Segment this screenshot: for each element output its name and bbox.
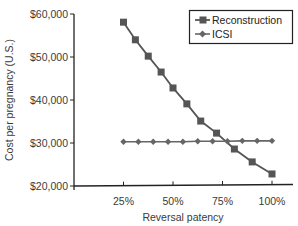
- y-axis-title: Cost per pregnancy (U.S.): [3, 39, 15, 161]
- diamond-marker-icon: [239, 138, 245, 144]
- x-axis-title: Reversal patency: [142, 211, 224, 223]
- square-marker-icon: [132, 36, 139, 43]
- square-marker-icon: [200, 17, 207, 24]
- diamond-marker-icon: [120, 139, 126, 145]
- square-marker-icon: [197, 118, 204, 125]
- diamond-marker-icon: [135, 139, 141, 145]
- x-tick-label: 100%: [259, 195, 286, 207]
- square-marker-icon: [170, 84, 177, 91]
- square-marker-icon: [158, 69, 165, 76]
- square-marker-icon: [269, 170, 276, 177]
- y-tick-label: $50,000: [30, 51, 68, 63]
- x-tick-label: 25%: [113, 195, 134, 207]
- legend-label-icsi: ICSI: [212, 28, 232, 40]
- square-marker-icon: [183, 100, 190, 107]
- y-axis: $20,000$30,000$40,000$50,000$60,000: [30, 8, 74, 192]
- cost-per-pregnancy-chart: $20,000$30,000$40,000$50,000$60,000 25%5…: [0, 0, 298, 226]
- x-tick-label: 50%: [162, 195, 183, 207]
- x-tick-label: 75%: [212, 195, 233, 207]
- y-tick-label: $60,000: [30, 8, 68, 20]
- series-icsi: [120, 138, 275, 145]
- diamond-marker-icon: [195, 138, 201, 144]
- legend-label-reconstruction: Reconstruction: [212, 14, 282, 26]
- square-marker-icon: [249, 158, 256, 165]
- diamond-marker-icon: [180, 139, 186, 145]
- x-axis: 25%50%75%100%: [74, 181, 293, 207]
- square-marker-icon: [145, 53, 152, 60]
- diamond-marker-icon: [254, 138, 260, 144]
- y-tick-label: $20,000: [30, 180, 68, 192]
- diamond-marker-icon: [224, 138, 230, 144]
- square-marker-icon: [213, 130, 220, 137]
- diamond-marker-icon: [209, 138, 215, 144]
- square-marker-icon: [120, 19, 127, 26]
- y-tick-label: $30,000: [30, 137, 68, 149]
- y-tick-label: $40,000: [30, 94, 68, 106]
- diamond-marker-icon: [269, 138, 275, 144]
- diamond-marker-icon: [150, 139, 156, 145]
- diamond-marker-icon: [165, 139, 171, 145]
- square-marker-icon: [231, 146, 238, 153]
- legend: Reconstruction ICSI: [190, 11, 293, 44]
